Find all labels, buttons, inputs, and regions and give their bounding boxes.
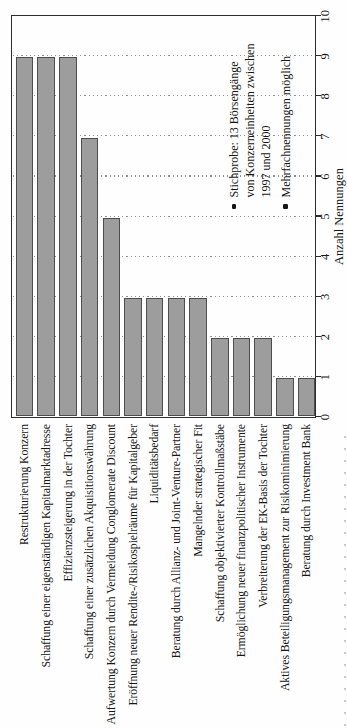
bullet-icon	[232, 205, 237, 210]
category-label: Ermöglichung neuer finanzpolitischer Ins…	[234, 424, 248, 657]
note-item: Mehrfachnennungen möglich	[278, 19, 294, 209]
category-label: Verbreiterung der EK-Basis der Tochter	[256, 424, 270, 608]
bar	[254, 338, 272, 416]
bar	[298, 378, 316, 416]
note-text: Mehrfachnennungen möglich	[278, 19, 294, 198]
axis-tick-label: 7	[318, 122, 332, 152]
scanned-figure-page: Restrukturierung KonzernSchaffung einer …	[0, 0, 347, 728]
axis-tick-label: 10	[318, 1, 332, 31]
note-line: 1997 und 2000	[258, 19, 274, 198]
category-label: Aktives Beteiligungsmanagement zur Risik…	[278, 424, 292, 691]
bar	[59, 57, 77, 416]
category-label: Effizienzsteigerung in der Tochter	[61, 424, 75, 581]
x-axis-title: Anzahl Nennungen	[332, 15, 346, 418]
bar	[276, 378, 294, 416]
bullet-icon	[283, 205, 288, 210]
bar	[189, 298, 207, 416]
note-line: von Konzerneinheiten zwischen	[242, 19, 258, 198]
sample-note-annotation: Stichprobe: 13 Börsengängevon Konzernein…	[226, 19, 297, 209]
axis-tick-label: 4	[318, 242, 332, 272]
axis-tick-label: 8	[318, 81, 332, 111]
bar	[211, 338, 229, 416]
note-item: Stichprobe: 13 Börsengängevon Konzernein…	[226, 19, 275, 209]
bar	[146, 298, 164, 416]
axis-tick-label: 6	[318, 162, 332, 192]
note-line: Stichprobe: 13 Börsengänge	[226, 19, 242, 198]
bar	[168, 298, 186, 416]
note-line: Mehrfachnennungen möglich	[278, 19, 294, 198]
axis-tick-label: 0	[318, 402, 332, 432]
bar	[103, 218, 121, 417]
category-label: Mangelnder strategischer Fit	[191, 424, 205, 557]
rotated-bar-chart: Restrukturierung KonzernSchaffung einer …	[0, 0, 347, 728]
category-label: Beratung durch Investment Bank	[299, 424, 313, 577]
category-label: Schaffung einer eigenständigen Kapitalma…	[39, 424, 53, 667]
note-text: Stichprobe: 13 Börsengängevon Konzernein…	[226, 19, 275, 198]
category-label: Beratung durch Allianz- und Joint-Ventur…	[169, 424, 183, 658]
bar	[233, 338, 251, 416]
category-label: Liquiditätsbedarf	[147, 424, 161, 504]
category-label: Eröffnung neuer Rendite-/Risikospielräum…	[126, 424, 140, 706]
category-label: Schaffung objektivierter Kontrollmaßstäb…	[213, 424, 227, 622]
category-label: Schaffung einer zusätzlichen Akquisition…	[82, 424, 96, 659]
bar	[16, 57, 34, 416]
axis-tick-label: 9	[318, 41, 332, 71]
bar	[81, 138, 99, 417]
category-label: Aufwertung Konzern durch Vermeidung Cong…	[104, 424, 118, 724]
axis-tick-label: 1	[318, 362, 332, 392]
page-edge-artifact	[344, 429, 347, 726]
axis-tick-label: 5	[318, 202, 332, 232]
axis-tick-label: 3	[318, 282, 332, 312]
axis-tick-label: 2	[318, 322, 332, 352]
category-label: Restrukturierung Konzern	[17, 424, 31, 545]
bar	[37, 57, 55, 416]
bar	[124, 298, 142, 416]
